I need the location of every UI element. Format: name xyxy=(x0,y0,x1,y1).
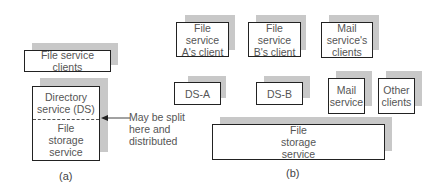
panel-b-label: (b) xyxy=(286,167,299,179)
directory-service-label: Directory service (DS) xyxy=(33,87,99,119)
file-service-a-client-box: File service A's client xyxy=(176,22,229,57)
mail-service-box: Mail service xyxy=(328,78,365,114)
file-storage-label: File storage service xyxy=(33,120,99,160)
file-storage-service-box: File storage service xyxy=(212,124,385,160)
split-annotation: May be split here and distributed xyxy=(129,111,185,147)
ds-storage-box: Directory service (DS) File storage serv… xyxy=(32,86,100,161)
file-service-b-client-box: File service B's client xyxy=(248,22,301,57)
mail-service-clients-box: Mail service's clients xyxy=(321,22,373,58)
other-clients-box: Other clients xyxy=(378,78,415,114)
file-service-clients-box: File service clients xyxy=(24,50,111,72)
ds-b-box: DS-B xyxy=(256,82,303,105)
arrow-icon xyxy=(99,113,131,123)
panel-a-label: (a) xyxy=(59,170,72,182)
ds-a-box: DS-A xyxy=(174,82,221,105)
